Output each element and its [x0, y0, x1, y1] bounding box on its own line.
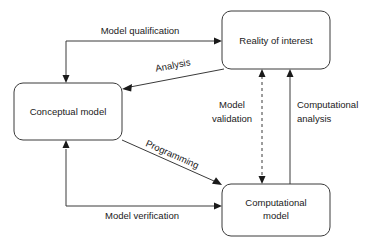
model-validation-arrowhead-down [259, 176, 266, 184]
edge-model-validation [259, 69, 266, 184]
edge-label-model-qualification: Model qualification [101, 25, 180, 36]
model-qualification-arrowhead-right [214, 38, 222, 45]
computational-model-label-line2: model [263, 210, 289, 221]
model-validation-arrowhead-up [259, 69, 266, 77]
edge-programming [122, 140, 222, 185]
diagram-canvas: Reality of interest Conceptual model Com… [0, 0, 374, 248]
node-reality-of-interest[interactable]: Reality of interest [222, 11, 330, 69]
edge-label-model-verification: Model verification [105, 210, 179, 221]
edge-model-qualification [63, 38, 223, 84]
edge-model-verification [63, 140, 223, 210]
conceptual-model-label: Conceptual model [30, 106, 107, 117]
model-qualification-arrowhead-down [63, 75, 70, 83]
reality-of-interest-label: Reality of interest [239, 35, 313, 46]
model-verification-arrowhead-right [214, 203, 222, 210]
node-conceptual-model[interactable]: Conceptual model [14, 83, 122, 140]
analysis-arrowhead [122, 84, 132, 92]
edge-label-computational-analysis-line2: analysis [297, 113, 332, 124]
model-verification-arrowhead-up [63, 140, 70, 148]
edge-analysis [122, 69, 224, 92]
computational-model-label-line1: Computational [245, 197, 306, 208]
edge-label-computational-analysis-line1: Computational [297, 99, 358, 110]
analysis-line [130, 69, 224, 87]
node-computational-model[interactable]: Computational model [222, 184, 330, 236]
edge-label-model-validation-line1: Model [219, 99, 245, 110]
vv-diagram: Reality of interest Conceptual model Com… [0, 0, 374, 248]
edge-label-model-validation-line2: validation [212, 113, 252, 124]
computational-analysis-arrowhead-up [287, 69, 294, 77]
edge-computational-analysis [287, 69, 294, 184]
edge-label-analysis: Analysis [154, 56, 191, 74]
